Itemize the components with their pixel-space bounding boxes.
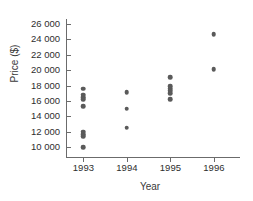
data-point xyxy=(125,106,130,111)
x-axis-tick-label: 1994 xyxy=(105,163,149,173)
data-point xyxy=(168,75,173,80)
y-axis-tick-mark xyxy=(67,86,71,87)
y-axis-tick-mark xyxy=(67,70,71,71)
y-axis-tick-mark xyxy=(67,101,71,102)
data-point xyxy=(168,97,173,102)
data-point xyxy=(81,145,86,150)
scatter-plot: Price ($) 10 00012 00014 00016 00018 000… xyxy=(0,0,253,201)
data-point xyxy=(81,104,86,109)
x-axis-tick-label: 1996 xyxy=(192,163,236,173)
y-axis-tick-mark xyxy=(67,116,71,117)
data-point xyxy=(81,86,86,91)
y-axis-tick-mark xyxy=(67,147,71,148)
x-axis-tick-label: 1993 xyxy=(61,163,105,173)
x-axis-tick-label: 1995 xyxy=(148,163,192,173)
y-axis-tick-mark xyxy=(67,132,71,133)
data-point xyxy=(125,125,130,130)
y-axis-tick-mark xyxy=(67,39,71,40)
x-axis-title: Year xyxy=(60,181,240,192)
data-point xyxy=(81,134,86,139)
y-axis-tick-mark xyxy=(67,55,71,56)
data-point xyxy=(212,32,217,37)
data-point xyxy=(125,90,130,95)
y-axis-tick-mark xyxy=(67,24,71,25)
data-point xyxy=(81,97,86,102)
data-point xyxy=(168,91,173,96)
data-point xyxy=(212,67,217,72)
